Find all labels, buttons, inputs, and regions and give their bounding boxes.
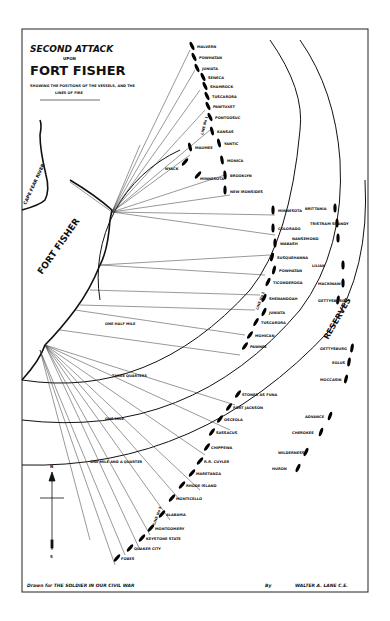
compass-south: S [50, 554, 53, 559]
coastline [22, 120, 112, 380]
svg-text:SHENANDOAH: SHENANDOAH [269, 297, 298, 301]
fort-label: FORT FISHER [35, 216, 81, 276]
svg-text:RHODE ISLAND: RHODE ISLAND [186, 484, 217, 488]
vessel: JUNIATA [261, 307, 286, 317]
svg-text:MOHICAN: MOHICAN [255, 334, 274, 338]
title-subtitle1: SHOWING THE POSITIONS OF THE VESSELS, AN… [30, 84, 135, 88]
vessel: LILIAN [312, 261, 345, 270]
title-line2: UPON [63, 56, 76, 61]
svg-text:NYACK: NYACK [165, 167, 179, 171]
svg-text:ADVANCE: ADVANCE [305, 415, 325, 419]
svg-text:PONTOOSUC: PONTOOSUC [215, 116, 241, 120]
vessel: HURON [272, 463, 301, 473]
svg-text:BROOKLYN: BROOKLYN [230, 174, 252, 178]
vessel: MONICA [220, 155, 244, 164]
svg-text:WABASH: WABASH [280, 242, 298, 246]
vessel: GETTYSBURG [320, 343, 354, 352]
svg-text:TUSCARORA: TUSCARORA [212, 95, 237, 99]
svg-text:HURON: HURON [272, 467, 287, 471]
footer-by: By [265, 583, 272, 588]
svg-text:JUNIATA: JUNIATA [268, 311, 285, 315]
vessel: TUSCARORA [204, 91, 237, 101]
svg-text:SHAMROCK: SHAMROCK [210, 85, 233, 89]
svg-text:CHIPPEWA: CHIPPEWA [211, 446, 233, 450]
svg-text:SUSQUEHANNA: SUSQUEHANNA [277, 256, 308, 260]
svg-text:STONER AS FUNA: STONER AS FUNA [242, 393, 278, 397]
svg-text:SASSACUS: SASSACUS [216, 431, 238, 435]
vessel: WILDERNESS [278, 447, 309, 457]
svg-text:POWHATAN: POWHATAN [279, 269, 302, 273]
svg-text:TRISTRAM SHANDY: TRISTRAM SHANDY [310, 222, 349, 226]
svg-text:GETTYSBURG: GETTYSBURG [320, 347, 347, 351]
svg-text:YANTIC: YANTIC [223, 142, 239, 146]
vessel: COLORADO [271, 224, 300, 233]
vessel: MONTGOMERY [147, 524, 185, 533]
svg-text:GETTYSBURG: GETTYSBURG [318, 299, 345, 303]
vessel: MONTICELLO [168, 494, 202, 503]
vessel: R.R. CUYLER [196, 457, 230, 466]
vessel: POWHATAN [191, 52, 222, 62]
svg-text:KANSAS: KANSAS [217, 130, 234, 134]
vessel: RHODE ISLAND [178, 481, 217, 490]
range-half-mile: ONE HALF MILE [105, 322, 136, 326]
vessel: SASSACUS [208, 427, 238, 436]
svg-text:QUAKER CITY: QUAKER CITY [134, 547, 161, 551]
vessel: KEYSTONE STATE [138, 534, 181, 543]
title-line1: SECOND ATTACK [30, 44, 114, 54]
vessel: MOHICAN [246, 330, 274, 339]
vessel: MAUMEE [187, 142, 213, 152]
svg-text:TUSCARORA: TUSCARORA [261, 321, 286, 325]
title-subtitle2: LINES OF FIRE [55, 91, 84, 95]
svg-text:TICONDEROGA: TICONDEROGA [273, 281, 303, 285]
vessel: SUSQUEHANNA [269, 252, 308, 262]
fire-lines [40, 50, 275, 565]
north-arrow-icon [49, 472, 55, 481]
svg-text:PAWTUXET: PAWTUXET [213, 105, 235, 109]
vessel: JUNIATA [194, 63, 219, 73]
vessels-line2: MINNESOTA COLORADO WABASH SUSQUEHANNA PO… [241, 206, 308, 351]
svg-text:NEW IRONSIDES: NEW IRONSIDES [230, 190, 263, 194]
vessel: MOCCASIN [320, 374, 349, 384]
vessel: POWHATAN [271, 265, 302, 275]
svg-text:ALABAMA: ALABAMA [166, 513, 186, 517]
vessel: PONTOOSUC [207, 112, 241, 122]
svg-text:EOLUS: EOLUS [332, 361, 346, 365]
svg-text:FORT JACKSON: FORT JACKSON [233, 406, 263, 410]
svg-text:MONICA: MONICA [227, 159, 244, 163]
vessel: MACKINAW [318, 279, 345, 288]
svg-text:CHEROKEE: CHEROKEE [292, 431, 314, 435]
vessel: NEW IRONSIDES [223, 186, 263, 195]
svg-text:MAUMEE: MAUMEE [195, 146, 213, 150]
svg-text:SENECA: SENECA [208, 76, 224, 80]
vessel: SHAMROCK [202, 81, 234, 91]
vessel: SENECA [200, 72, 224, 82]
svg-text:LILIAN: LILIAN [312, 264, 325, 268]
svg-text:MALVERN: MALVERN [197, 45, 216, 49]
vessel: STONER AS FUNA [234, 389, 277, 398]
vessel: FOBES [113, 554, 135, 563]
vessel: ALABAMA [158, 510, 186, 519]
vessel: OSCEOLA [216, 414, 243, 423]
svg-text:MONTICELLO: MONTICELLO [176, 497, 202, 501]
svg-text:R.R. CUYLER: R.R. CUYLER [204, 460, 230, 464]
vessel: MINNESOTA [271, 206, 302, 215]
vessel: MINNESOTA [194, 171, 224, 181]
svg-text:KEYSTONE STATE: KEYSTONE STATE [146, 537, 181, 541]
vessel: EOLUS [332, 357, 351, 366]
svg-text:COLORADO: COLORADO [278, 227, 301, 231]
svg-text:OSCEOLA: OSCEOLA [224, 418, 243, 422]
vessel: MALVERN [189, 41, 217, 51]
vessel: PAWTUXET [205, 101, 236, 111]
range-mile-quarter: ONE MILE AND A QUARTER [90, 460, 143, 464]
svg-text:NANSEMOND: NANSEMOND [292, 237, 318, 241]
vessel: KANSAS [209, 126, 234, 136]
vessel: YANTIC [216, 138, 239, 148]
vessel: PAWNEE [241, 341, 267, 350]
vessel: BRITTANIA [305, 204, 337, 213]
vessel: TUSCARORA [252, 317, 286, 326]
vessel: BROOKLYN [223, 170, 252, 179]
title-main: FORT FISHER [30, 63, 126, 78]
svg-text:MACKINAW: MACKINAW [318, 282, 341, 286]
compass-north: N [50, 464, 53, 469]
svg-text:MINNESOTA: MINNESOTA [200, 177, 224, 181]
